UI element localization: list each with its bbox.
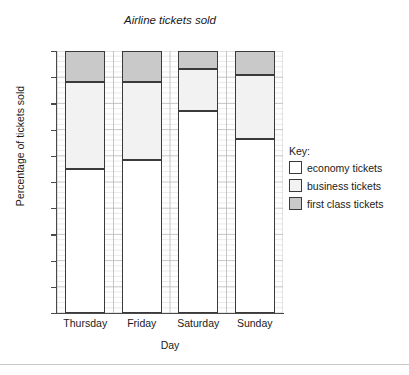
chart-figure: Airline tickets sold Percentage of ticke… bbox=[0, 0, 409, 375]
bar-segment-economy[interactable] bbox=[122, 160, 162, 313]
bar-segment-first[interactable] bbox=[122, 51, 162, 82]
bar-segment-first[interactable] bbox=[65, 51, 105, 82]
legend-swatch-icon bbox=[289, 179, 302, 192]
legend-item[interactable]: business tickets bbox=[289, 179, 407, 192]
bar-segment-business[interactable] bbox=[235, 75, 275, 139]
legend-item[interactable]: economy tickets bbox=[289, 161, 407, 174]
x-tick-label: Thursday bbox=[57, 317, 114, 329]
bar-group[interactable] bbox=[235, 51, 275, 313]
bar-segment-first[interactable] bbox=[178, 51, 218, 69]
x-tick-label: Saturday bbox=[170, 317, 227, 329]
x-axis-title: Day bbox=[57, 339, 283, 351]
bar-segment-economy[interactable] bbox=[235, 139, 275, 313]
bar-segment-business[interactable] bbox=[122, 82, 162, 159]
bar-group[interactable] bbox=[65, 51, 105, 313]
bar-segment-economy[interactable] bbox=[178, 111, 218, 313]
chart-legend: Key: economy ticketsbusiness ticketsfirs… bbox=[289, 145, 407, 215]
bar-segment-economy[interactable] bbox=[65, 169, 105, 313]
legend-label: economy tickets bbox=[307, 162, 382, 174]
bottom-divider bbox=[0, 364, 409, 365]
bar-group[interactable] bbox=[122, 51, 162, 313]
legend-label: first class tickets bbox=[307, 198, 383, 210]
plot-area bbox=[57, 51, 283, 313]
bar-segment-business[interactable] bbox=[65, 82, 105, 168]
legend-label: business tickets bbox=[307, 180, 381, 192]
legend-swatch-icon bbox=[289, 197, 302, 210]
y-axis-ticks: 0102030405060708090100 bbox=[0, 0, 50, 375]
bar-segment-first[interactable] bbox=[235, 51, 275, 75]
chart-title: Airline tickets sold bbox=[57, 14, 283, 26]
bar-group[interactable] bbox=[178, 51, 218, 313]
legend-items: economy ticketsbusiness ticketsfirst cla… bbox=[289, 161, 407, 210]
legend-item[interactable]: first class tickets bbox=[289, 197, 407, 210]
x-tick-label: Friday bbox=[114, 317, 171, 329]
x-tick-label: Sunday bbox=[227, 317, 284, 329]
bar-segment-business[interactable] bbox=[178, 69, 218, 111]
legend-title: Key: bbox=[289, 145, 407, 157]
legend-swatch-icon bbox=[289, 161, 302, 174]
x-axis-line bbox=[56, 313, 284, 314]
